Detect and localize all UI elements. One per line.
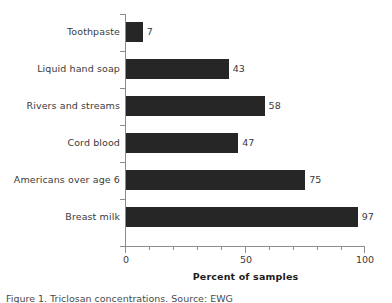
x-axis-tick-minor-90 (341, 247, 342, 250)
x-axis-tick-label-100: 100 (356, 255, 374, 265)
x-axis-tick-minor-70 (293, 247, 294, 250)
bar-americans-over-age-6 (126, 170, 305, 190)
y-axis-tick-3 (120, 125, 125, 126)
y-axis-tick-2 (120, 88, 125, 89)
bar-value-5: 97 (362, 212, 374, 222)
x-axis-tick-major-0 (125, 247, 126, 253)
y-axis-tick-4 (120, 162, 125, 163)
bar-liquid-hand-soap (126, 59, 229, 79)
y-axis-label-1: Liquid hand soap (0, 64, 120, 74)
plot-area: 7 43 58 47 75 97 (126, 14, 365, 246)
x-axis-tick-major-50 (245, 247, 246, 253)
x-axis-tick-minor-60 (269, 247, 270, 250)
y-axis-label-5: Breast milk (0, 212, 120, 222)
y-axis-tick-0 (120, 14, 125, 15)
x-axis-title: Percent of samples (126, 272, 365, 282)
bar-rivers-and-streams (126, 96, 265, 116)
bar-value-1: 43 (233, 64, 245, 74)
x-axis-tick-minor-10 (149, 247, 150, 250)
y-axis-tick-1 (120, 51, 125, 52)
bar-breast-milk (126, 207, 358, 227)
x-axis-tick-minor-40 (221, 247, 222, 250)
bar-toothpaste (126, 22, 143, 42)
x-axis-tick-label-0: 0 (123, 255, 129, 265)
x-axis-tick-minor-30 (197, 247, 198, 250)
figure-caption: Figure 1. Triclosan concentrations. Sour… (6, 293, 386, 303)
bar-value-4: 75 (309, 175, 321, 185)
x-axis-tick-minor-20 (173, 247, 174, 250)
y-axis-labels: Toothpaste Liquid hand soap Rivers and s… (0, 0, 120, 303)
y-axis-tick-5 (120, 199, 125, 200)
bar-value-3: 47 (242, 138, 254, 148)
x-axis-tick-major-100 (364, 247, 365, 253)
y-axis-label-3: Cord blood (0, 138, 120, 148)
x-axis-tick-minor-80 (317, 247, 318, 250)
bar-value-0: 7 (147, 27, 153, 37)
y-axis-label-0: Toothpaste (0, 27, 120, 37)
bar-chart: Toothpaste Liquid hand soap Rivers and s… (0, 0, 392, 303)
bar-value-2: 58 (269, 101, 281, 111)
x-axis-tick-label-50: 50 (240, 255, 252, 265)
y-axis-label-4: Americans over age 6 (0, 175, 120, 185)
y-axis-label-2: Rivers and streams (0, 101, 120, 111)
bar-cord-blood (126, 133, 238, 153)
